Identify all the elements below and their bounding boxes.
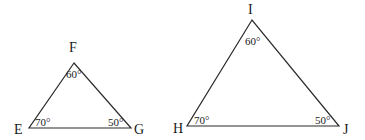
vertex-label-i: I (248, 2, 253, 17)
diagram-canvas: F E G 60° 70° 50° I H J 60° 70° 50° (0, 0, 365, 140)
angle-label-f: 60° (66, 68, 81, 80)
triangle-hij: I H J 60° 70° 50° (173, 2, 349, 137)
angle-label-g: 50° (108, 116, 123, 128)
angle-label-h: 70° (194, 114, 209, 126)
triangle-hij-outline (187, 20, 339, 126)
angle-label-j: 50° (315, 114, 330, 126)
vertex-label-e: E (14, 122, 23, 137)
vertex-label-j: J (343, 122, 349, 137)
similar-triangles-diagram: F E G 60° 70° 50° I H J 60° 70° 50° (0, 0, 365, 140)
angle-label-e: 70° (35, 116, 50, 128)
vertex-label-h: H (173, 121, 183, 136)
angle-label-i: 60° (245, 35, 260, 47)
vertex-label-g: G (134, 122, 144, 137)
triangle-efg: F E G 60° 70° 50° (14, 40, 144, 137)
vertex-label-f: F (69, 40, 77, 55)
